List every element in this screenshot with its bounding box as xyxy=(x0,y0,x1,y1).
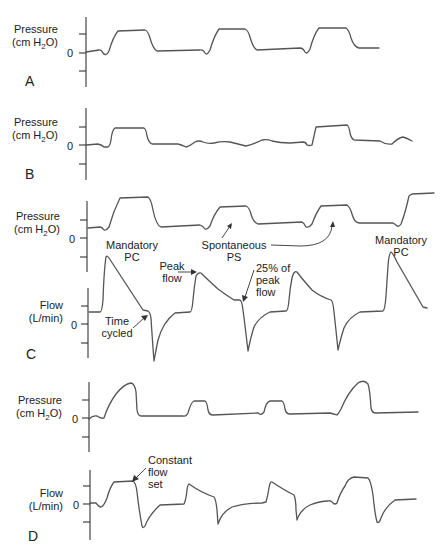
annotation-peak-flow-line2: flow xyxy=(162,272,182,284)
panel-d-pressure-waveform xyxy=(89,381,418,419)
panel-c-pressure-zero-label: 0 xyxy=(69,233,75,245)
ventilator-waveforms-figure: Pressure (cm H2O) 0 A Pressure (cm H2O) … xyxy=(0,0,443,552)
annotation-constant-line3: set xyxy=(148,478,163,490)
arrow-25pct-peak-flow xyxy=(245,270,254,297)
annotation-mandatory-pc-right-line2: PC xyxy=(393,246,408,258)
panel-c-flow-zero-label: 0 xyxy=(71,319,77,331)
panel-c: Pressure (cm H2O) 0 Mandatory PC Spontan… xyxy=(14,193,434,362)
annotation-time-cycled-line1: Time xyxy=(105,315,129,327)
annotation-25pct-line1: 25% of xyxy=(256,262,291,274)
arrow-constant-flow xyxy=(136,468,146,478)
annotation-peak-flow-line1: Peak xyxy=(159,260,185,272)
panel-a-zero-label: 0 xyxy=(67,47,73,59)
arrowhead-icon xyxy=(242,295,248,302)
arrow-spontaneous-to-first-ps xyxy=(222,226,230,238)
panel-b-zero-label: 0 xyxy=(67,140,73,152)
panel-b-ylabel-line2: (cm H2O) xyxy=(12,129,58,144)
annotation-25pct-line2: peak xyxy=(256,274,280,286)
arrowhead-icon xyxy=(227,223,232,229)
panel-a-pressure-waveform xyxy=(86,28,379,55)
panel-c-flow-ylabel-line1: Flow xyxy=(40,299,63,311)
annotation-constant-line2: flow xyxy=(148,466,168,478)
panel-a-ylabel-line1: Pressure xyxy=(14,23,58,35)
panel-d-flow-ylabel-line1: Flow xyxy=(40,487,63,499)
panel-c-label: C xyxy=(26,346,36,362)
panel-d-label: D xyxy=(28,528,38,544)
panel-d-pressure-zero-label: 0 xyxy=(72,413,78,425)
panel-b-pressure-waveform xyxy=(86,125,412,147)
panel-d-flow-ylabel-line2: (L/min) xyxy=(29,500,63,512)
annotation-spontaneous-line2: PS xyxy=(227,251,242,263)
panel-c-flow-ylabel-line2: (L/min) xyxy=(29,312,63,324)
panel-d-flow-zero-label: 0 xyxy=(73,499,79,511)
panel-c-pressure-waveform xyxy=(88,193,434,230)
annotation-mandatory-pc-right-line1: Mandatory xyxy=(375,234,427,246)
panel-b-label: B xyxy=(25,166,34,182)
panel-d-flow-waveform xyxy=(90,477,416,528)
annotation-constant-line1: Constant xyxy=(148,454,192,466)
arrow-spontaneous-to-second-ps xyxy=(271,226,332,246)
panel-a-ylabel-line2: (cm H2O) xyxy=(12,36,58,51)
panel-a: Pressure (cm H2O) 0 A xyxy=(12,17,379,89)
arrowhead-icon xyxy=(330,221,335,227)
arrowhead-icon xyxy=(191,269,197,275)
panel-b-ylabel-line1: Pressure xyxy=(14,116,58,128)
panel-d-pressure-ylabel-line1: Pressure xyxy=(18,394,62,406)
panel-d: Pressure (cm H2O) 0 Flow (L/min) 0 D Con… xyxy=(16,381,418,544)
annotation-mandatory-pc-left-line2: PC xyxy=(124,251,139,263)
annotation-time-cycled-line2: cycled xyxy=(101,327,132,339)
panel-b: Pressure (cm H2O) 0 B xyxy=(12,108,412,182)
arrow-time-cycled xyxy=(133,318,144,328)
annotation-spontaneous-line1: Spontaneous xyxy=(202,239,267,251)
panel-a-label: A xyxy=(25,73,35,89)
panel-c-pressure-ylabel-line2: (cm H2O) xyxy=(14,223,60,238)
panel-c-pressure-ylabel-line1: Pressure xyxy=(16,210,60,222)
annotation-25pct-line3: flow xyxy=(256,286,276,298)
annotation-mandatory-pc-left-line1: Mandatory xyxy=(106,239,158,251)
panel-d-pressure-ylabel-line2: (cm H2O) xyxy=(16,407,62,422)
